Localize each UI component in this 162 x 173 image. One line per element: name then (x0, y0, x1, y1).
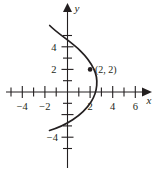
x-axis-group (6, 86, 152, 98)
y-axis-group (62, 3, 74, 168)
y-axis-arrowhead (63, 3, 72, 12)
y-tick-label-minus4: −4 (47, 132, 59, 143)
point-2-2-group (88, 67, 93, 72)
parabola-graph-figure: −4 −2 2 4 6 2 4 −4 x y (2, 2) (0, 0, 162, 173)
x-tick-label-6: 6 (133, 101, 138, 112)
y-tick-label-2: 2 (51, 64, 56, 75)
point-2-2-dot (88, 67, 93, 72)
x-axis-label: x (146, 94, 152, 106)
y-axis-label: y (74, 2, 80, 14)
x-tick-label-4: 4 (110, 101, 116, 112)
x-tick-label-2: 2 (87, 101, 92, 112)
x-tick-label-minus2: −2 (39, 101, 50, 112)
coordinate-plane-svg: −4 −2 2 4 6 2 4 −4 x y (2, 2) (0, 0, 162, 173)
x-tick-label-minus4: −4 (17, 101, 29, 112)
point-label-2-2: (2, 2) (95, 64, 117, 76)
y-tick-label-4: 4 (51, 42, 57, 53)
